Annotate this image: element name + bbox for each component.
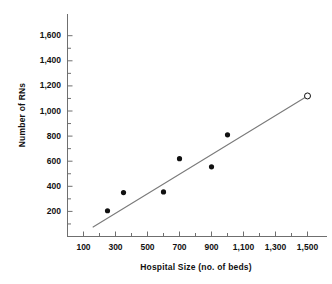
x-tick-label: 1,300 (259, 243, 293, 252)
x-tick-label: 900 (195, 243, 229, 252)
scatter-chart: Number of RNs Hospital Size (no. of beds… (0, 0, 332, 284)
x-tick-label: 1,500 (291, 243, 325, 252)
data-point (161, 189, 166, 194)
data-point (121, 190, 126, 195)
y-tick-label: 1,400 (27, 56, 61, 65)
data-point-open (305, 93, 311, 99)
trend-line (93, 96, 307, 227)
y-tick-label: 1,600 (27, 31, 61, 40)
y-axis-label: Number of RNs (17, 83, 27, 147)
x-tick-label: 500 (131, 243, 165, 252)
data-points (105, 93, 311, 213)
y-tick-label: 800 (27, 132, 61, 141)
data-point (105, 208, 110, 213)
regression-line (93, 96, 307, 227)
x-axis-ticks (84, 232, 308, 237)
data-point (225, 132, 230, 137)
y-tick-label: 200 (27, 207, 61, 216)
x-tick-label: 700 (163, 243, 197, 252)
y-tick-label: 1,000 (27, 107, 61, 116)
y-tick-label: 1,200 (27, 81, 61, 90)
data-point (177, 156, 182, 161)
y-axis-ticks (68, 36, 73, 224)
y-tick-label: 600 (27, 157, 61, 166)
x-tick-label: 300 (99, 243, 133, 252)
axes (67, 14, 327, 237)
y-tick-label: 400 (27, 182, 61, 191)
x-axis-label: Hospital Size (no. of beds) (67, 262, 325, 272)
data-point (209, 164, 214, 169)
x-tick-label: 100 (67, 243, 101, 252)
x-tick-label: 1,100 (227, 243, 261, 252)
